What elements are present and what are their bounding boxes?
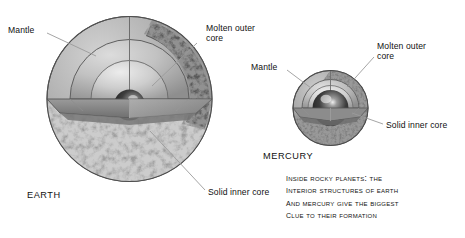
- figure-caption: Inside rocky planets: the interior struc…: [286, 172, 458, 222]
- mercury-molten-outer-core-label-line2: core: [377, 51, 394, 61]
- caption-line-3: and Mercury give the biggest: [286, 197, 458, 209]
- caption-line-4: clue to their formation: [286, 209, 458, 221]
- mercury-mantle-label: Mantle: [251, 62, 277, 72]
- caption-line-2: interior structures of Earth: [286, 184, 458, 196]
- earth-molten-outer-core-label-line1: Molten outer: [206, 23, 255, 33]
- diagram-canvas: Mantle Molten outer core Solid inner cor…: [0, 0, 465, 238]
- mercury-solid-inner-core-label: Solid inner core: [386, 120, 447, 130]
- earth-mantle-label: Mantle: [8, 25, 34, 35]
- mercury-molten-outer-core-label-line1: Molten outer: [377, 41, 426, 51]
- mercury-name-label: MERCURY: [263, 151, 313, 161]
- mercury-outer-core-leader: [347, 57, 374, 87]
- earth-diagram: [47, 17, 213, 191]
- earth-name-label: EARTH: [27, 190, 61, 200]
- mercury-diagram: [287, 57, 383, 146]
- caption-line-1: Inside rocky planets: the: [286, 172, 458, 184]
- earth-molten-outer-core-label-line2: core: [206, 33, 223, 43]
- earth-solid-inner-core-label: Solid inner core: [208, 187, 269, 197]
